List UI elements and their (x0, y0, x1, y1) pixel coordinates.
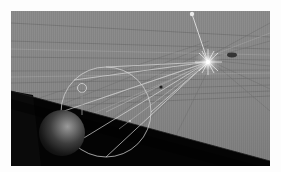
shadow-blob-marker (227, 53, 237, 58)
render-canvas[interactable] (11, 11, 270, 166)
cone-axis-marker (159, 85, 162, 88)
cone-midpoint-marker (129, 120, 131, 122)
scene-svg (11, 11, 270, 166)
light-target-handle[interactable] (190, 12, 194, 16)
spot-light-gizmo[interactable] (206, 60, 210, 64)
viewport-frame (0, 0, 281, 172)
sphere-object[interactable] (39, 110, 85, 156)
